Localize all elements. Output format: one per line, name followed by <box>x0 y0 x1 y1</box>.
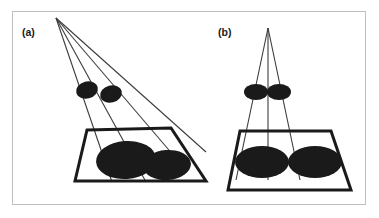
panel-b-shadow-blob-1 <box>235 146 289 178</box>
figure-root: (a) (b) <box>0 0 379 218</box>
panel-b-group <box>228 28 351 190</box>
panel-b-source-blob-1 <box>244 84 268 100</box>
panel-a-group <box>56 18 206 182</box>
projection-diagram-canvas <box>0 0 379 218</box>
panel-b-label: (b) <box>218 26 231 38</box>
panel-b-source-blob-2 <box>267 84 291 100</box>
panel-a-label: (a) <box>22 26 35 38</box>
panel-b-shadow-blob-2 <box>288 146 342 178</box>
